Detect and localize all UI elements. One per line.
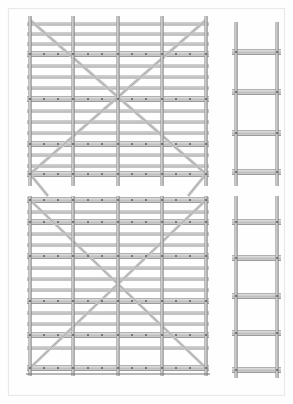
connection-node bbox=[131, 98, 133, 100]
connection-node bbox=[87, 143, 89, 145]
connection-node bbox=[131, 173, 133, 175]
connection-node bbox=[131, 300, 133, 302]
connection-node bbox=[101, 143, 103, 145]
standard-post bbox=[29, 16, 32, 186]
connection-node bbox=[29, 143, 31, 145]
connection-node bbox=[131, 367, 133, 369]
connection-node bbox=[43, 221, 45, 223]
connection-node bbox=[29, 334, 31, 336]
connection-node bbox=[57, 255, 59, 257]
connection-node bbox=[101, 255, 103, 257]
connection-node bbox=[87, 334, 89, 336]
scaffolding-technical-drawing bbox=[0, 0, 293, 404]
connection-node bbox=[43, 173, 45, 175]
connection-node bbox=[87, 53, 89, 55]
connection-node bbox=[175, 367, 177, 369]
connection-node bbox=[235, 369, 237, 371]
connection-node bbox=[72, 98, 74, 100]
frame-rung bbox=[232, 294, 281, 299]
connection-node bbox=[117, 334, 119, 336]
connection-node bbox=[189, 53, 191, 55]
connection-node bbox=[235, 171, 237, 173]
frame-rung bbox=[232, 131, 281, 136]
connection-node bbox=[161, 143, 163, 145]
connection-node bbox=[175, 173, 177, 175]
connection-node bbox=[189, 221, 191, 223]
standard-post bbox=[117, 196, 120, 376]
connection-node bbox=[276, 332, 278, 334]
connection-node bbox=[205, 143, 207, 145]
connection-node bbox=[131, 255, 133, 257]
connection-node bbox=[276, 132, 278, 134]
connection-node bbox=[87, 221, 89, 223]
connection-node bbox=[235, 91, 237, 93]
connection-node bbox=[161, 300, 163, 302]
connection-node bbox=[145, 367, 147, 369]
frame-rung bbox=[232, 220, 281, 225]
connection-node bbox=[276, 91, 278, 93]
connection-node bbox=[276, 295, 278, 297]
connection-node bbox=[145, 98, 147, 100]
connection-node bbox=[145, 143, 147, 145]
connection-node bbox=[117, 98, 119, 100]
connection-node bbox=[72, 173, 74, 175]
connection-node bbox=[29, 367, 31, 369]
connection-node bbox=[189, 199, 191, 201]
connection-node bbox=[145, 334, 147, 336]
connection-node bbox=[161, 98, 163, 100]
connection-node bbox=[145, 300, 147, 302]
connection-node bbox=[57, 143, 59, 145]
connection-node bbox=[29, 300, 31, 302]
connection-node bbox=[29, 53, 31, 55]
connection-node bbox=[72, 255, 74, 257]
connection-node bbox=[43, 300, 45, 302]
frame-rung bbox=[232, 256, 281, 261]
connection-node bbox=[43, 143, 45, 145]
connection-node bbox=[101, 199, 103, 201]
frame-rung bbox=[232, 368, 281, 373]
connection-node bbox=[205, 173, 207, 175]
connection-node bbox=[57, 221, 59, 223]
connection-node bbox=[29, 98, 31, 100]
connection-node bbox=[161, 334, 163, 336]
connection-node bbox=[161, 199, 163, 201]
connection-node bbox=[189, 173, 191, 175]
standard-post bbox=[117, 16, 120, 186]
connection-node bbox=[131, 334, 133, 336]
drawing-sheet bbox=[0, 0, 293, 404]
connection-node bbox=[235, 51, 237, 53]
connection-node bbox=[131, 53, 133, 55]
connection-node bbox=[276, 171, 278, 173]
connection-node bbox=[175, 221, 177, 223]
connection-node bbox=[276, 221, 278, 223]
connection-node bbox=[72, 221, 74, 223]
connection-node bbox=[161, 367, 163, 369]
connection-node bbox=[57, 53, 59, 55]
connection-node bbox=[117, 173, 119, 175]
connection-node bbox=[205, 255, 207, 257]
connection-node bbox=[101, 173, 103, 175]
connection-node bbox=[43, 255, 45, 257]
connection-node bbox=[131, 221, 133, 223]
connection-node bbox=[117, 199, 119, 201]
connection-node bbox=[57, 98, 59, 100]
connection-node bbox=[43, 367, 45, 369]
connection-node bbox=[101, 300, 103, 302]
connection-node bbox=[57, 334, 59, 336]
connection-node bbox=[189, 367, 191, 369]
connection-node bbox=[101, 221, 103, 223]
frame-post bbox=[235, 22, 238, 186]
connection-node bbox=[145, 255, 147, 257]
connection-node bbox=[175, 199, 177, 201]
connection-node bbox=[145, 199, 147, 201]
standard-post bbox=[161, 196, 164, 376]
connection-node bbox=[72, 53, 74, 55]
connection-node bbox=[189, 255, 191, 257]
connection-node bbox=[205, 199, 207, 201]
frame-rung bbox=[232, 90, 281, 95]
connection-node bbox=[87, 98, 89, 100]
connection-node bbox=[72, 367, 74, 369]
standard-post bbox=[205, 196, 208, 376]
connection-node bbox=[205, 98, 207, 100]
frame-post bbox=[276, 196, 279, 378]
